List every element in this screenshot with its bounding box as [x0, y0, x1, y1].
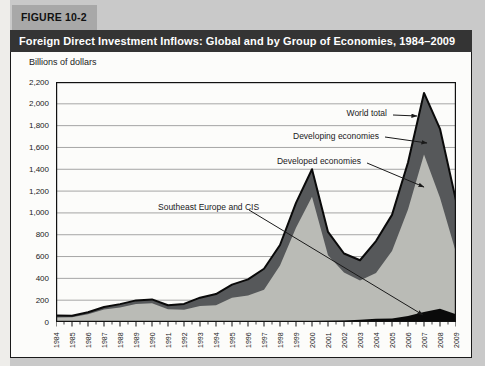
x-tick-label: 1994 — [213, 332, 221, 348]
x-tick-label: 1987 — [101, 332, 109, 348]
x-tick-label: 1993 — [197, 332, 205, 348]
y-tick-label: 2,200 — [11, 78, 49, 87]
x-tick-label: 2003 — [357, 332, 365, 348]
chart-panel: Billions of dollars 02004006008001,0001,… — [10, 52, 472, 358]
scanned-figure-page: FIGURE 10-2 Foreign Direct Investment In… — [0, 0, 485, 366]
y-tick-label: 800 — [11, 230, 49, 239]
x-tick-label: 1991 — [165, 332, 173, 348]
x-tick-label: 1989 — [133, 332, 141, 348]
annotation-label: World total — [347, 108, 387, 119]
y-tick-label: 200 — [11, 296, 49, 305]
x-tick-label: 1995 — [229, 332, 237, 348]
y-tick-label: 1,000 — [11, 208, 49, 217]
x-tick-label: 1992 — [181, 332, 189, 348]
x-tick-label: 2006 — [405, 332, 413, 348]
x-tick-label: 2005 — [389, 332, 397, 348]
x-tick-label: 1988 — [117, 332, 125, 348]
x-axis-ticks — [56, 322, 456, 327]
figure-number: FIGURE 10-2 — [21, 11, 87, 23]
x-tick-label: 2001 — [325, 332, 333, 348]
y-tick-label: 0 — [11, 318, 49, 327]
y-tick-label: 1,200 — [11, 187, 49, 196]
x-tick-label: 1996 — [245, 332, 253, 348]
figure-title: Foreign Direct Investment Inflows: Globa… — [19, 35, 455, 47]
y-axis-units-label: Billions of dollars — [29, 57, 97, 67]
annotation-label: Developing economies — [293, 131, 379, 142]
annotation-label: Developed economies — [277, 156, 361, 167]
x-tick-label: 2008 — [437, 332, 445, 348]
figure-number-tab: FIGURE 10-2 — [12, 5, 97, 30]
x-tick-label: 1984 — [53, 332, 61, 348]
x-tick-label: 1999 — [293, 332, 301, 348]
x-tick-label: 2009 — [453, 332, 461, 348]
x-tick-label: 2007 — [421, 332, 429, 348]
y-tick-label: 1,400 — [11, 165, 49, 174]
y-tick-label: 1,800 — [11, 121, 49, 130]
x-tick-label: 2002 — [341, 332, 349, 348]
y-tick-label: 400 — [11, 274, 49, 283]
x-tick-label: 1998 — [277, 332, 285, 348]
x-tick-label: 2004 — [373, 332, 381, 348]
x-tick-label: 2000 — [309, 332, 317, 348]
x-tick-label: 1997 — [261, 332, 269, 348]
x-tick-label: 1986 — [85, 332, 93, 348]
y-tick-label: 1,600 — [11, 143, 49, 152]
y-tick-label: 600 — [11, 252, 49, 261]
figure-title-bar: Foreign Direct Investment Inflows: Globa… — [10, 30, 472, 52]
x-tick-label: 1990 — [149, 332, 157, 348]
page-margin — [0, 0, 10, 366]
x-tick-label: 1985 — [69, 332, 77, 348]
y-tick-label: 2,000 — [11, 99, 49, 108]
annotation-label: Southeast Europe and CIS — [158, 202, 259, 213]
